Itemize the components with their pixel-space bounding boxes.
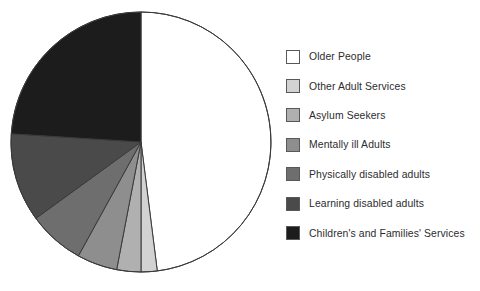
legend-item-asylum-seekers[interactable]: Asylum Seekers <box>286 101 480 130</box>
legend-item-other-adult-services[interactable]: Other Adult Services <box>286 71 480 100</box>
legend-label-physically-disabled-adults: Physically disabled adults <box>309 169 430 180</box>
legend-label-mentally-ill-adults: Mentally ill Adults <box>309 139 391 150</box>
pie-chart-figure: Older People Other Adult Services Asylum… <box>0 0 480 291</box>
legend-swatch-childrens-and-families-services <box>286 226 300 240</box>
chart-legend: Older People Other Adult Services Asylum… <box>286 42 480 248</box>
legend-label-other-adult-services: Other Adult Services <box>309 81 406 92</box>
legend-item-learning-disabled-adults[interactable]: Learning disabled adults <box>286 189 480 218</box>
legend-item-mentally-ill-adults[interactable]: Mentally ill Adults <box>286 130 480 159</box>
pie-slice[interactable] <box>11 12 141 142</box>
legend-item-physically-disabled-adults[interactable]: Physically disabled adults <box>286 160 480 189</box>
legend-label-learning-disabled-adults: Learning disabled adults <box>309 198 424 209</box>
legend-item-older-people[interactable]: Older People <box>286 42 480 71</box>
legend-swatch-other-adult-services <box>286 79 300 93</box>
legend-swatch-older-people <box>286 50 300 64</box>
legend-swatch-asylum-seekers <box>286 108 300 122</box>
legend-swatch-mentally-ill-adults <box>286 138 300 152</box>
legend-label-childrens-and-families-services: Children's and Families' Services <box>309 228 465 239</box>
legend-swatch-learning-disabled-adults <box>286 197 300 211</box>
legend-label-asylum-seekers: Asylum Seekers <box>309 110 385 121</box>
pie-slice[interactable] <box>141 12 271 271</box>
legend-swatch-physically-disabled-adults <box>286 167 300 181</box>
legend-label-older-people: Older People <box>309 51 371 62</box>
pie-slice-group <box>11 12 271 272</box>
legend-item-childrens-and-families-services[interactable]: Children's and Families' Services <box>286 218 480 247</box>
